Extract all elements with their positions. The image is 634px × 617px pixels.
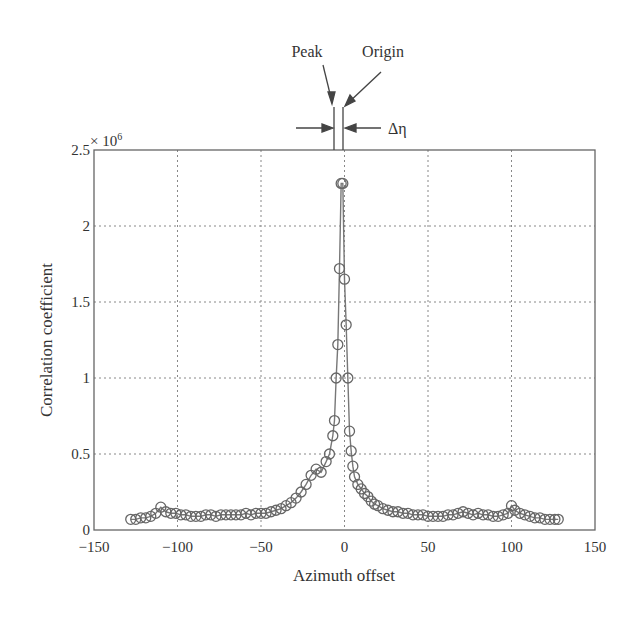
y-tick-label: 0 bbox=[83, 522, 91, 538]
y-tick-labels: 00.511.522.5 bbox=[71, 142, 90, 538]
y-tick-label: 1 bbox=[83, 370, 91, 386]
x-tick-label: −50 bbox=[249, 539, 272, 555]
x-axis-label: Azimuth offset bbox=[293, 566, 395, 585]
grid bbox=[94, 150, 595, 530]
origin-label: Origin bbox=[362, 43, 404, 61]
y-axis-label: Correlation coefficient bbox=[37, 263, 56, 417]
x-tick-label: 50 bbox=[421, 539, 436, 555]
y-tick-label: 2 bbox=[83, 218, 91, 234]
x-tick-labels: −150−100−50050100150 bbox=[79, 539, 607, 555]
y-multiplier: × 106 bbox=[90, 131, 122, 149]
y-tick-label: 2.5 bbox=[71, 142, 90, 158]
x-tick-label: −100 bbox=[162, 539, 193, 555]
peak-origin-annotation bbox=[296, 65, 381, 150]
correlation-chart: −150−100−50050100150 00.511.522.5 × 106 … bbox=[0, 0, 634, 617]
x-tick-label: −150 bbox=[79, 539, 110, 555]
y-tick-label: 0.5 bbox=[71, 446, 90, 462]
peak-label: Peak bbox=[291, 43, 322, 60]
x-tick-label: 100 bbox=[500, 539, 523, 555]
y-tick-label: 1.5 bbox=[71, 294, 90, 310]
x-tick-label: 150 bbox=[584, 539, 607, 555]
x-tick-label: 0 bbox=[341, 539, 349, 555]
delta-eta-label: Δη bbox=[388, 120, 407, 138]
